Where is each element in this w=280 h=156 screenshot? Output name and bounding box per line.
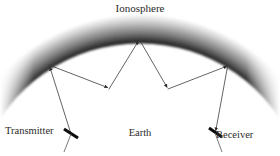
ray-segment-earth1-to-iono2 bbox=[109, 42, 138, 90]
receiver-label: Receiver bbox=[216, 130, 253, 141]
transmitter-label: Transmitter bbox=[5, 126, 54, 137]
ray-segment-iono3-to-receiver bbox=[216, 64, 228, 131]
ionosphere-propagation-diagram: Ionosphere Earth Transmitter Receiver bbox=[0, 0, 280, 156]
ray-segment-earth2-to-iono3 bbox=[168, 66, 227, 89]
ray-segment-iono1-to-earth1 bbox=[49, 65, 108, 88]
ionosphere-label: Ionosphere bbox=[0, 3, 280, 14]
ray-segment-iono2-to-earth2 bbox=[139, 39, 167, 87]
